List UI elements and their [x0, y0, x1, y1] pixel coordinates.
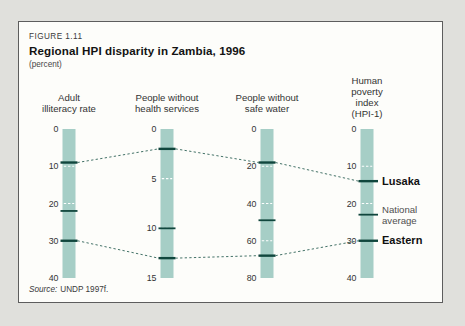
source-line: Source:UNDP 1997f.: [29, 285, 108, 294]
series-label: average: [382, 215, 417, 226]
tick-label: 40: [247, 199, 257, 209]
figure-box: FIGURE 1.11 Regional HPI disparity in Za…: [18, 21, 443, 303]
axis-title: illiteracy rate: [42, 103, 96, 114]
connector-line: [78, 241, 159, 258]
tick-label: 80: [247, 273, 257, 283]
tick-label: 10: [347, 161, 357, 171]
tick-label: 15: [147, 273, 157, 283]
axis-title: health services: [135, 103, 199, 114]
axis-title: index: [356, 97, 379, 108]
series-label: National: [382, 204, 417, 215]
tick-label: 30: [49, 236, 59, 246]
axis-bar: [161, 129, 174, 278]
chart-svg: Adultilliteracy rate010203040People with…: [19, 22, 442, 302]
tick-label: 0: [54, 124, 59, 134]
tick-label: 20: [347, 199, 357, 209]
axis-title: poverty: [351, 86, 383, 97]
axis-title: People without: [136, 92, 199, 103]
tick-label: 40: [49, 273, 59, 283]
tick-label: 0: [252, 124, 257, 134]
axis-title: Human: [352, 75, 383, 86]
tick-label: 40: [347, 273, 357, 283]
axis-title: People without: [236, 92, 299, 103]
tick-label: 0: [152, 124, 157, 134]
series-label: Eastern: [382, 234, 423, 246]
source-prefix: Source:: [29, 285, 57, 294]
source-text: UNDP 1997f.: [60, 285, 108, 294]
connector-line: [78, 149, 159, 163]
tick-label: 30: [347, 236, 357, 246]
axis-title: Adult: [58, 92, 80, 103]
tick-label: 5: [152, 174, 157, 184]
tick-label: 10: [49, 161, 59, 171]
tick-label: 0: [352, 124, 357, 134]
series-label: Lusaka: [382, 175, 421, 187]
tick-label: 20: [49, 199, 59, 209]
tick-label: 10: [147, 223, 157, 233]
tick-label: 20: [247, 161, 257, 171]
axis-title: safe water: [245, 103, 290, 114]
connector-line: [176, 256, 259, 258]
tick-label: 60: [247, 236, 257, 246]
axis-title: (HPI-1): [352, 108, 383, 119]
